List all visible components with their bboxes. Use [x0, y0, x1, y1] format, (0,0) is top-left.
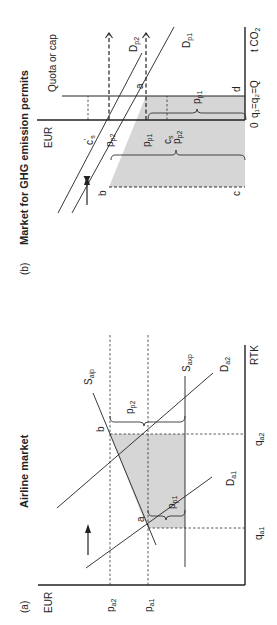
brace-label-pp2-a: pp2	[124, 401, 137, 414]
label-saxp: Saxp	[181, 354, 194, 372]
panel-a-title: Airline market	[18, 434, 30, 508]
panel-b-eur-label: EUR	[43, 127, 54, 148]
brace-pp2-a	[110, 416, 185, 426]
arrow-up-icon-b-head	[84, 176, 90, 185]
label-saip: Saip	[83, 369, 96, 385]
tick-pp2: pp2	[104, 134, 117, 147]
point-c-b: c	[231, 191, 242, 196]
label-dp2: Dp2	[128, 37, 141, 52]
point-d-b: d	[231, 86, 242, 92]
point-a-b: a	[134, 83, 145, 89]
point-a-a: a	[135, 516, 146, 522]
tick-qa2: qa2	[253, 433, 265, 446]
tick-pa1: pa1	[143, 599, 155, 612]
quota-label: Quota or cap	[47, 34, 58, 92]
point-b-a: b	[95, 426, 106, 432]
rtk-label: RTK	[249, 345, 260, 365]
demand-dp2	[58, 53, 142, 213]
panel-b-title: Market for GHG emission permits	[18, 70, 30, 245]
economics-figure: (b) Market for GHG emission permits EUR …	[0, 0, 277, 625]
panel-b-tag: (b)	[19, 263, 30, 275]
shaded-area-airline	[110, 434, 185, 528]
label-da1: Da1	[225, 471, 237, 486]
tick-cs-prime: c's	[83, 135, 96, 145]
tick-qa1: qa1	[253, 527, 265, 540]
label-dp1: Dp1	[181, 33, 194, 48]
panel-a-airline-market	[38, 335, 245, 585]
tick-pa2: pa2	[105, 599, 117, 612]
label-da2: Da2	[219, 357, 231, 372]
tco2-label: t CO2	[249, 27, 261, 52]
arrow-up-icon-a-head	[85, 524, 91, 533]
figure-svg: (b) Market for GHG emission permits EUR …	[0, 0, 277, 625]
panel-b-ghg-permits	[37, 27, 246, 213]
panel-a-tag: (a)	[19, 601, 30, 613]
point-b-b: b	[97, 190, 108, 196]
quantity-label: q₁=q₂=Q	[249, 80, 260, 118]
origin-label: 0	[249, 122, 260, 128]
panel-a-eur-label: EUR	[43, 592, 54, 613]
